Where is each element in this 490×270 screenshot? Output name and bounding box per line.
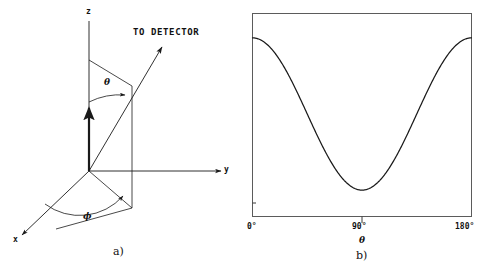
projection-top-line	[89, 60, 132, 86]
detector-direction-arrow	[89, 47, 162, 171]
phi-angle-label: ϕ	[83, 212, 91, 221]
panel-b-plot	[253, 14, 472, 224]
panel-a-caption: a)	[113, 246, 124, 257]
distribution-curve	[253, 38, 472, 190]
projection-base-line	[56, 208, 132, 229]
to-detector-label: TO DETECTOR	[133, 28, 199, 37]
theta-arc	[89, 95, 125, 102]
panel-b-caption: b)	[356, 250, 367, 261]
xtick-label-180: 180°	[455, 223, 474, 231]
xtick-label-90: 90°	[352, 223, 366, 231]
z-axis-label: z	[86, 8, 91, 16]
y-axis-label: y	[224, 166, 229, 174]
figure-container: z y x TO DETECTOR θ ϕ a) 0° 90° 180° θ b…	[0, 0, 490, 270]
panel-a-diagram	[22, 21, 221, 235]
theta-angle-label: θ	[104, 78, 110, 87]
projection-ground-line	[89, 171, 132, 208]
x-axis-label: x	[13, 236, 18, 244]
xtick-label-0: 0°	[247, 223, 257, 231]
figure-svg	[0, 0, 490, 270]
plot-xaxis-label: θ	[359, 236, 365, 245]
x-axis-line	[22, 171, 89, 235]
plot-frame	[253, 14, 472, 217]
